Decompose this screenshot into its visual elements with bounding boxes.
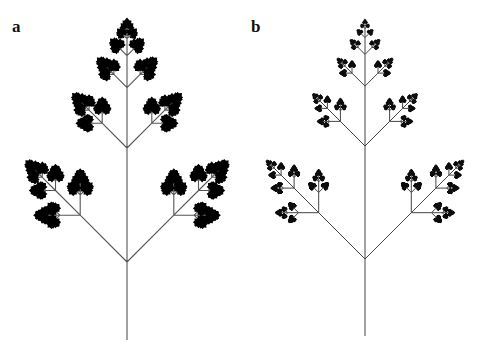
fractal-tree-b	[266, 19, 465, 336]
branch-lines	[267, 20, 463, 336]
fractal-tree-a	[25, 19, 229, 341]
tree-canvas	[0, 0, 490, 356]
fractal-tree-figure: a b	[0, 0, 490, 356]
